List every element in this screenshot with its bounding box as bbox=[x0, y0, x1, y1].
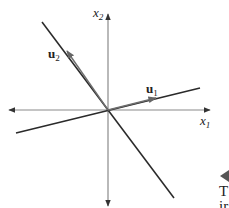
margin-text-line1: T bbox=[219, 184, 228, 199]
u2-label: u2 bbox=[48, 47, 60, 63]
margin-text-line2: ir bbox=[219, 199, 228, 208]
u2-label-sub: 2 bbox=[55, 53, 60, 63]
coordinate-diagram bbox=[0, 0, 229, 208]
u2-vector bbox=[67, 51, 108, 110]
x2-label-sub: 2 bbox=[99, 12, 104, 22]
left-triangle-icon bbox=[220, 170, 229, 182]
u1-label: u1 bbox=[146, 82, 158, 98]
x1-label-sub: 1 bbox=[206, 120, 211, 130]
u1-vector bbox=[108, 98, 156, 110]
u1-label-sub: 1 bbox=[153, 88, 158, 98]
x1-axis-label: x1 bbox=[200, 114, 210, 130]
x2-axis-label: x2 bbox=[93, 6, 103, 22]
